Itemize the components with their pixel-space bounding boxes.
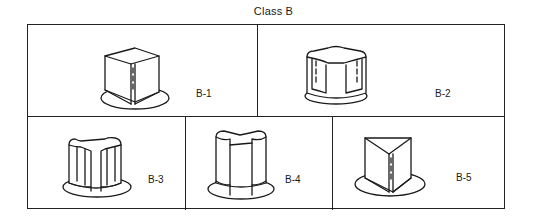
knob-b5-illustration: [353, 134, 427, 198]
knob-b3-illustration: [61, 135, 133, 199]
panel-b4: B-4: [185, 117, 332, 210]
knob-b4-illustration: [206, 129, 276, 201]
panel-label: B-4: [285, 174, 301, 185]
panel-b1: B-1: [28, 25, 257, 116]
panel-label: B-5: [456, 172, 472, 183]
panel-b5: B-5: [332, 117, 506, 210]
panel-b2: B-2: [257, 25, 506, 116]
figure-title: Class B: [0, 5, 547, 17]
panel-label: B-1: [196, 88, 212, 99]
knob-b1-illustration: [95, 42, 175, 112]
knob-b2-illustration: [302, 45, 372, 107]
panel-label: B-2: [435, 88, 451, 99]
panel-b3: B-3: [28, 117, 185, 210]
panel-label: B-3: [148, 174, 164, 185]
panel-grid: B-1 B-2 B-3: [27, 24, 505, 209]
